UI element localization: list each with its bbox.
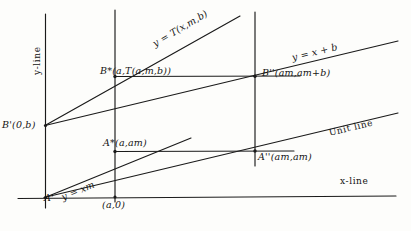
point-label-a-prime: A'	[44, 193, 54, 203]
point-label-a-double-prime: A''(am,am)	[258, 152, 312, 162]
shift-line-y-equals-x-plus-b	[45, 41, 398, 126]
point-label-b-double-prime: B''(am,am+b)	[262, 68, 330, 78]
x-line-label: x-line	[340, 177, 368, 186]
point-label-a-zero: (a,0)	[102, 200, 125, 210]
diagram-figure: y-line x-line y = T(x,m,b) y = x + b y =…	[0, 0, 411, 231]
point-label-b-prime: B'(0,b)	[2, 120, 36, 130]
point-marker-b-prime	[44, 124, 47, 127]
point-marker-b-double-prime	[253, 75, 256, 78]
point-label-b-star: B*(a,T(a,m,b))	[100, 66, 171, 76]
y-line-label: y-line	[33, 46, 42, 75]
point-marker-a-double-prime	[253, 149, 256, 152]
point-label-a-star: A*(a,am)	[103, 138, 147, 148]
point-marker-a-star	[113, 150, 116, 153]
